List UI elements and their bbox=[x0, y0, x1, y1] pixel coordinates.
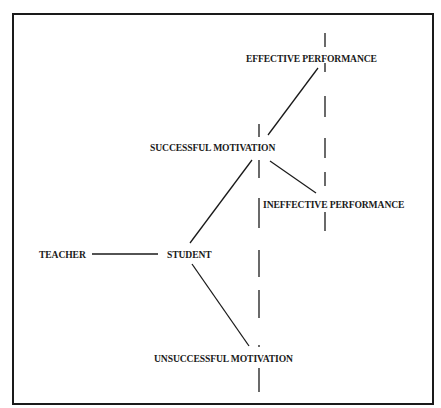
edge-successful_motivation-to-effective_performance bbox=[268, 68, 318, 135]
node-ineffective-performance: INEFFECTIVE PERFORMANCE bbox=[263, 200, 404, 210]
node-student: STUDENT bbox=[167, 250, 212, 260]
edge-student-to-successful_motivation bbox=[190, 160, 252, 243]
edge-successful_motivation-to-ineffective_performance bbox=[270, 161, 316, 193]
edge-student-to-unsuccessful_motivation bbox=[192, 264, 249, 346]
node-successful-motivation: SUCCESSFUL MOTIVATION bbox=[150, 143, 275, 153]
node-teacher: TEACHER bbox=[39, 250, 86, 260]
node-unsuccessful-motivation: UNSUCCESSFUL MOTIVATION bbox=[154, 354, 293, 364]
node-effective-performance: EFFECTIVE PERFORMANCE bbox=[246, 54, 377, 64]
dashed-boundaries bbox=[259, 33, 325, 392]
